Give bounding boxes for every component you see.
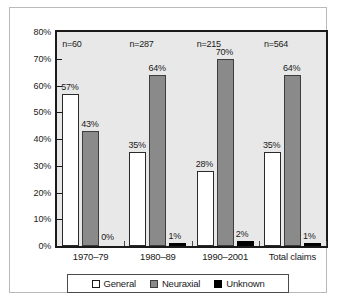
bar-general[interactable] [197, 171, 214, 246]
bar-general[interactable] [129, 152, 146, 246]
x-axis-tick-label: 1990–2001 [202, 251, 248, 262]
legend-label: General [104, 279, 136, 289]
x-axis-tick-label: 1970–79 [73, 251, 109, 262]
bar-value-label: 64% [148, 64, 165, 73]
plot-area: n=6057%43%0%n=28735%64%1%n=21528%70%2%n=… [55, 30, 328, 248]
x-axis-tick-label: 1980–89 [140, 251, 176, 262]
legend-swatch-unknown-icon [214, 280, 222, 288]
bar-unknown[interactable] [169, 243, 186, 246]
bar-general[interactable] [264, 152, 281, 246]
group-sample-size-label: n=564 [264, 40, 288, 49]
y-axis: 0%10%20%30%40%50%60%70%80% [16, 30, 54, 248]
bar-value-label: 0% [101, 233, 114, 242]
y-axis-tick-label: 30% [34, 161, 51, 170]
x-axis-tick-mark [192, 241, 193, 246]
y-axis-tick-label: 50% [34, 108, 51, 117]
legend-swatch-neuraxial-icon [150, 280, 158, 288]
chart-legend: GeneralNeuraxialUnknown [67, 274, 289, 293]
group-sample-size-label: n=287 [129, 40, 153, 49]
bar-neuraxial[interactable] [217, 59, 234, 246]
group-sample-size-label: n=60 [62, 40, 81, 49]
legend-swatch-general-icon [92, 280, 100, 288]
legend-label: Neuraxial [162, 279, 200, 289]
bar-neuraxial[interactable] [149, 75, 166, 246]
bar-neuraxial[interactable] [82, 131, 99, 246]
bar-general[interactable] [62, 94, 79, 246]
y-axis-tick-label: 0% [38, 242, 51, 251]
bar-value-label: 2% [236, 230, 249, 239]
legend-item-general[interactable]: General [92, 279, 136, 289]
bar-value-label: 57% [61, 83, 78, 92]
bar-value-label: 43% [81, 120, 98, 129]
x-axis: 1970–791980–891990–2001Total claims [55, 251, 328, 265]
bar-value-label: 1% [168, 232, 181, 241]
y-axis-tick-label: 40% [34, 135, 51, 144]
y-axis-tick-label: 70% [34, 54, 51, 63]
bar-group: n=28735%64%1% [126, 32, 193, 246]
bar-group: n=56435%64%1% [261, 32, 328, 246]
bar-value-label: 35% [263, 141, 280, 150]
bar-unknown[interactable] [304, 243, 321, 246]
bar-neuraxial[interactable] [284, 75, 301, 246]
x-axis-tick-mark [124, 241, 125, 246]
legend-item-unknown[interactable]: Unknown [214, 279, 264, 289]
bar-value-label: 28% [196, 160, 213, 169]
legend-label: Unknown [226, 279, 264, 289]
bar-unknown[interactable] [237, 241, 254, 246]
bar-value-label: 70% [216, 48, 233, 57]
x-axis-tick-label: Total claims [269, 251, 316, 262]
y-axis-tick-label: 10% [34, 215, 51, 224]
bar-value-label: 64% [283, 64, 300, 73]
x-axis-tick-mark [259, 241, 260, 246]
x-axis-tick-mark [326, 241, 327, 246]
bar-group: n=21528%70%2% [194, 32, 261, 246]
bar-value-label: 35% [128, 141, 145, 150]
y-axis-tick-label: 20% [34, 188, 51, 197]
bar-group: n=6057%43%0% [59, 32, 126, 246]
y-axis-tick-label: 80% [34, 28, 51, 37]
figure-frame: 0%10%20%30%40%50%60%70%80% n=6057%43%0%n… [9, 7, 327, 293]
legend-item-neuraxial[interactable]: Neuraxial [150, 279, 200, 289]
bar-value-label: 1% [303, 232, 316, 241]
y-axis-tick-label: 60% [34, 81, 51, 90]
